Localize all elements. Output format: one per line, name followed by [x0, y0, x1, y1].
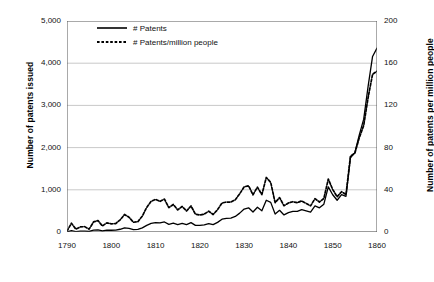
legend-item-patents: # Patents — [96, 22, 218, 34]
x-axis-tick-label: 1830 — [224, 241, 264, 250]
x-axis-tick-label: 1810 — [136, 241, 176, 250]
y-axis-right-tick-label: 120 — [384, 100, 418, 109]
gridlines — [67, 21, 377, 232]
plot-area — [67, 21, 377, 232]
y-axis-left-tick-label: 3,000 — [27, 100, 61, 109]
y-axis-left-tick-label: 2,000 — [27, 143, 61, 152]
data-series-group — [67, 48, 377, 232]
legend-item-patents-per-million: # Patents/million people — [96, 36, 218, 48]
y-axis-title-left: Number of patents issued — [25, 30, 35, 200]
legend-label-patents-per-million: # Patents/million people — [133, 38, 218, 47]
x-axis-tick-label: 1850 — [313, 241, 353, 250]
x-axis-tick-label: 1790 — [47, 241, 87, 250]
y-axis-right-tick-label: 80 — [384, 143, 418, 152]
y-axis-left-tick-label: 4,000 — [27, 58, 61, 67]
y-axis-left-tick-label: 0 — [27, 227, 61, 236]
y-axis-right-tick-label: 160 — [384, 58, 418, 67]
legend-key-solid-line — [96, 24, 128, 32]
y-axis-right-tick-label: 200 — [384, 16, 418, 25]
y-axis-title-right: Number of patents per million people — [425, 15, 434, 215]
x-axis-tick-label: 1800 — [91, 241, 131, 250]
legend-label-patents: # Patents — [133, 24, 167, 33]
series-line-1 — [67, 71, 377, 231]
y-axis-right-tick-label: 0 — [384, 227, 418, 236]
y-axis-right-tick-label: 40 — [384, 185, 418, 194]
legend-key-dotted-line — [96, 38, 128, 46]
x-axis-tick-label: 1820 — [180, 241, 220, 250]
chart-legend: # Patents # Patents/million people — [96, 22, 218, 50]
x-axis-tick-label: 1840 — [268, 241, 308, 250]
x-axis-tick-label: 1860 — [357, 241, 397, 250]
chart-svg — [67, 21, 377, 232]
y-axis-left-tick-label: 1,000 — [27, 185, 61, 194]
chart-container: Number of patents issued Number of paten… — [0, 0, 434, 282]
y-axis-left-tick-label: 5,000 — [27, 16, 61, 25]
